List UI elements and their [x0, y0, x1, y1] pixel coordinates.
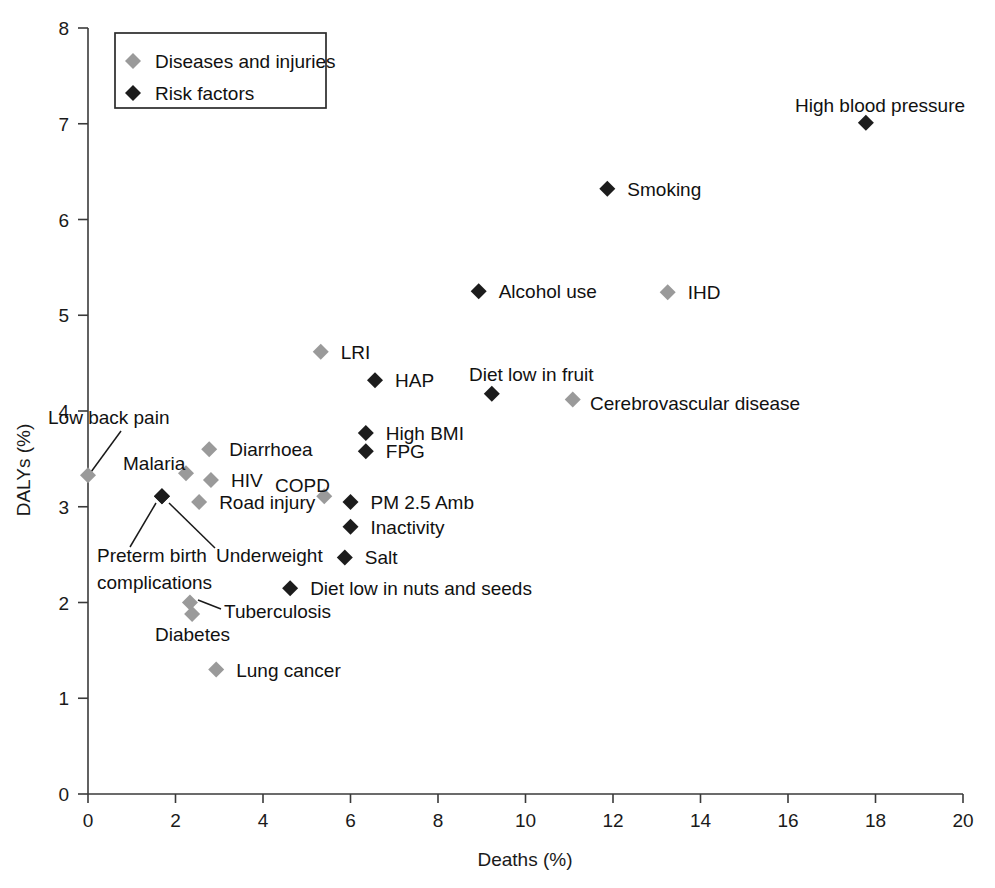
point-label-hap: HAP — [395, 370, 434, 391]
y-tick-label: 8 — [58, 18, 69, 39]
x-tick-label: 10 — [515, 810, 536, 831]
point-label-cerebrovascular-disease: Cerebrovascular disease — [590, 393, 800, 414]
x-tick-label: 0 — [83, 810, 94, 831]
data-point-fpg[interactable] — [358, 443, 374, 459]
point-label-tuberculosis: Tuberculosis — [224, 601, 331, 622]
legend-label-diseases: Diseases and injuries — [155, 51, 336, 72]
point-label-road-injury: Road injury — [219, 492, 316, 513]
data-point-alcohol-use[interactable] — [471, 283, 487, 299]
point-label-high-blood-pressure: High blood pressure — [795, 95, 965, 116]
point-label-diabetes: Diabetes — [155, 624, 230, 645]
series-diseases-and-injuries — [80, 284, 676, 677]
point-label-inactivity: Inactivity — [371, 517, 445, 538]
point-label-salt: Salt — [365, 547, 398, 568]
point-label-fpg: FPG — [386, 441, 425, 462]
x-tick-label: 20 — [952, 810, 973, 831]
point-label-smoking: Smoking — [627, 179, 701, 200]
y-tick-label: 2 — [58, 593, 69, 614]
x-tick-label: 18 — [865, 810, 886, 831]
x-axis-title: Deaths (%) — [477, 849, 572, 870]
data-point-tuberculosis[interactable] — [182, 595, 198, 611]
point-labels: IHDLRICerebrovascular diseaseDiarrhoeaLo… — [48, 95, 965, 681]
x-tick-label: 4 — [258, 810, 269, 831]
x-axis-ticks: 02468101214161820 — [83, 794, 974, 831]
data-point-high-bmi[interactable] — [358, 425, 374, 441]
data-point-high-blood-pressure[interactable] — [858, 115, 874, 131]
leader-preterm-birth — [130, 503, 156, 547]
data-point-hiv[interactable] — [203, 472, 219, 488]
point-label-malaria: Malaria — [123, 453, 186, 474]
axes — [88, 28, 963, 794]
data-point-road-injury[interactable] — [191, 494, 207, 510]
y-tick-label: 7 — [58, 114, 69, 135]
point-label-lri: LRI — [341, 342, 371, 363]
x-tick-label: 2 — [170, 810, 181, 831]
series-risk-factors — [154, 115, 874, 596]
leader-low-back-pain — [91, 431, 121, 472]
data-point-pm-2-5-amb[interactable] — [343, 494, 359, 510]
y-tick-label: 0 — [58, 784, 69, 805]
data-point-salt[interactable] — [337, 549, 353, 565]
y-axis-title: DALYs (%) — [13, 424, 34, 517]
legend-entry-diseases[interactable]: Diseases and injuries — [125, 51, 336, 72]
chart-canvas: 02468101214161820 012345678 Deaths (%) D… — [0, 0, 995, 888]
y-tick-label: 5 — [58, 305, 69, 326]
data-point-inactivity[interactable] — [343, 519, 359, 535]
data-point-lri[interactable] — [313, 344, 329, 360]
leader-underweight — [169, 503, 215, 548]
y-tick-label: 6 — [58, 210, 69, 231]
point-label-ihd: IHD — [688, 282, 721, 303]
point-label-low-back-pain: Low back pain — [48, 407, 169, 428]
data-point-diarrhoea[interactable] — [201, 441, 217, 457]
point-label-alcohol-use: Alcohol use — [499, 281, 597, 302]
legend-label-risk-factors: Risk factors — [155, 83, 254, 104]
x-tick-label: 12 — [602, 810, 623, 831]
x-tick-label: 14 — [690, 810, 712, 831]
data-point-ihd[interactable] — [660, 284, 676, 300]
data-point-diabetes[interactable] — [184, 606, 200, 622]
x-tick-label: 16 — [777, 810, 798, 831]
data-point-underweight[interactable] — [154, 488, 170, 504]
point-label-diarrhoea: Diarrhoea — [229, 439, 313, 460]
y-tick-label: 1 — [58, 688, 69, 709]
point-label-diet-low-in-fruit: Diet low in fruit — [469, 364, 594, 385]
point-label-underweight: Underweight — [216, 545, 323, 566]
x-tick-label: 6 — [345, 810, 356, 831]
data-point-diet-low-in-nuts-and-seeds[interactable] — [282, 580, 298, 596]
data-point-hap[interactable] — [367, 372, 383, 388]
y-tick-label: 3 — [58, 497, 69, 518]
x-tick-label: 8 — [433, 810, 444, 831]
point-label-preterm-birth-complications: Preterm birthcomplications — [97, 545, 212, 593]
chart-legend: Diseases and injuries Risk factors — [115, 33, 336, 108]
leader-tuberculosis — [198, 600, 221, 609]
data-point-diet-low-in-fruit[interactable] — [484, 386, 500, 402]
point-label-lung-cancer: Lung cancer — [236, 660, 341, 681]
data-point-smoking[interactable] — [599, 181, 615, 197]
point-label-hiv: HIV — [231, 470, 263, 491]
point-label-pm-2-5-amb: PM 2.5 Amb — [371, 492, 475, 513]
data-point-lung-cancer[interactable] — [208, 662, 224, 678]
point-label-diet-low-in-nuts-and-seeds: Diet low in nuts and seeds — [310, 578, 532, 599]
scatter-chart-figure: 02468101214161820 012345678 Deaths (%) D… — [0, 0, 995, 888]
data-point-cerebrovascular-disease[interactable] — [565, 392, 581, 408]
